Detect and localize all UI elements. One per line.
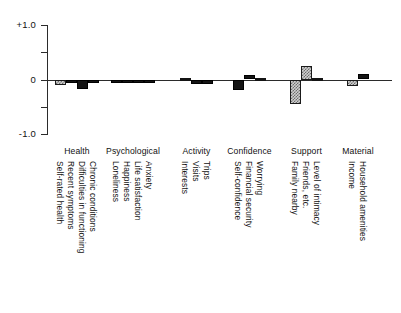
category-label: Self-confidence: [233, 161, 241, 220]
category-label: Trips: [202, 161, 210, 180]
category-label: Visits: [191, 161, 199, 181]
bar: [66, 80, 77, 84]
category-label: Self-rated health: [55, 161, 63, 224]
category-label: Income: [347, 161, 355, 189]
y-axis-label-bottom: -1.0: [19, 129, 36, 139]
y-axis-label-top: +1.0: [16, 20, 36, 30]
category-label: Interests: [180, 161, 188, 194]
bar: [111, 80, 122, 84]
bar: [233, 80, 244, 91]
category-label: Recent symptoms: [66, 161, 74, 230]
category-label: Anxiety: [144, 161, 152, 189]
bar: [88, 80, 99, 84]
y-axis-label-zero: 0: [31, 75, 36, 85]
category-label: Worrying: [255, 161, 263, 195]
category-label: Family nearby: [290, 161, 298, 215]
category-label: Level of intimacy: [312, 161, 320, 225]
group-label: Material: [298, 147, 401, 156]
bar: [290, 80, 301, 105]
bar: [55, 80, 66, 86]
bar: [312, 78, 323, 80]
category-label: Household amenities: [358, 161, 366, 241]
bar: [77, 80, 88, 89]
bar: [122, 80, 133, 84]
bar: [244, 75, 255, 79]
bar: [180, 78, 191, 80]
category-label: Friends, etc.: [301, 161, 309, 208]
bar: [358, 74, 369, 79]
bar-chart: +1.0 0 -1.0 Self-rated healthRecent symp…: [0, 0, 401, 313]
bar: [301, 66, 312, 80]
category-label: Financial security: [244, 161, 252, 228]
bar: [202, 80, 213, 85]
category-label: Loneliness: [111, 161, 119, 202]
plot-area: [47, 25, 392, 135]
bar: [191, 80, 202, 85]
bar: [255, 78, 266, 80]
category-label: Difficulties in functioning: [77, 161, 85, 253]
bar: [133, 80, 144, 84]
bar: [347, 80, 358, 87]
category-label: Chronic conditions: [88, 161, 96, 232]
category-label: Life satisfaction: [133, 161, 141, 220]
bar: [144, 80, 155, 84]
category-label: Happiness: [122, 161, 130, 201]
